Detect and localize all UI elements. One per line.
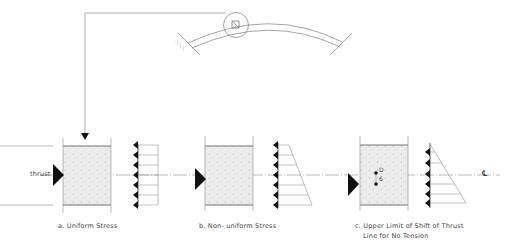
section-block xyxy=(360,145,408,205)
leader-line xyxy=(85,13,226,133)
section-block xyxy=(63,146,111,205)
diagram-canvas xyxy=(0,0,509,247)
thrust-arrow-icon xyxy=(348,173,359,196)
thrust-label: thrust xyxy=(30,170,51,178)
stress-arrows-icon xyxy=(133,141,138,209)
panel-c-no-tension xyxy=(348,136,466,211)
thrust-arrow-icon xyxy=(53,164,64,186)
panel-b-nonuniform xyxy=(195,136,312,211)
caption-panel-a: a. Uniform Stress xyxy=(58,222,117,230)
caption-panel-c-line1: c. Upper Limit of Shift of Thrust xyxy=(355,222,464,230)
stress-arrows-icon xyxy=(273,141,278,209)
section-pointer-arrow-icon xyxy=(81,133,89,140)
d-over-6-den: 6 xyxy=(379,176,383,181)
centerline-symbol: ℄ xyxy=(482,169,487,178)
stress-arrows-icon xyxy=(425,148,430,207)
thrust-arrow-icon xyxy=(195,168,206,190)
caption-panel-b: b. Non- uniform Stress xyxy=(199,222,276,230)
d-over-6-num: D xyxy=(379,167,384,172)
panel-a-uniform xyxy=(0,138,158,213)
caption-panel-c-line2: Line for No Tension xyxy=(363,232,429,240)
section-block xyxy=(205,146,253,205)
arch-elevation xyxy=(174,13,352,56)
